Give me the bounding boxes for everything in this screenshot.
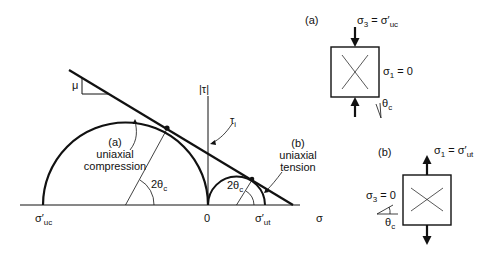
element-b-tag: (b) [378, 146, 391, 158]
element-a-side-sub: 1 [390, 71, 394, 80]
origin-label: 0 [204, 212, 210, 224]
tau-axis-label: |τ| [199, 83, 209, 95]
angle-arc-b [246, 191, 254, 205]
label-b-tag: (b) [268, 137, 328, 149]
leader-a-arrowhead [133, 119, 138, 124]
element-a-top-eq: = σ′ [368, 14, 389, 26]
sigma-uc-base: σ′ [35, 212, 44, 224]
element-b-box [403, 175, 451, 225]
sigma-ut-label: σ′ut [255, 212, 271, 226]
sigma-ut-base: σ′ [255, 212, 264, 224]
angle-b-base: 2θ [227, 179, 239, 191]
element-b-side-sub: 3 [373, 195, 377, 204]
label-a-line2: compression [80, 160, 150, 172]
mu-label: μ [72, 79, 78, 91]
leader-tau-i-arrowhead [210, 140, 216, 145]
label-a-line1: uniaxial [80, 148, 150, 160]
element-b-arrowhead-bottom [423, 236, 432, 245]
angle-b-sub: c [239, 185, 243, 194]
sigma-ut-sub: ut [264, 218, 271, 227]
label-a-compression: (a) uniaxial compression [80, 136, 150, 172]
tau-i-label: τi [230, 114, 236, 128]
element-a-angle-sub: c [388, 103, 392, 112]
angle-b-label: 2θc [227, 179, 243, 193]
angle-a-sub: c [163, 184, 167, 193]
tau-i-sub: i [234, 120, 236, 129]
element-b-side-base: σ [366, 189, 373, 201]
element-a-top-stress: σ3 = σ′uc [357, 14, 398, 28]
element-b-side-eq: = 0 [377, 189, 396, 201]
element-a-arrowhead-top [351, 38, 360, 47]
element-b-top-base: σ [434, 144, 441, 156]
tangent-point-b [250, 177, 255, 182]
label-b-line2: tension [268, 161, 328, 173]
element-a-arrowhead-bottom [351, 97, 360, 106]
element-b-angle-label: θc [385, 216, 395, 230]
element-b-arrowhead-top [423, 155, 432, 164]
angle-a-base: 2θ [151, 178, 163, 190]
element-a-side-eq: = 0 [394, 65, 413, 77]
sigma-axis-label: σ [316, 212, 323, 224]
element-b-top-sub: 1 [441, 150, 445, 159]
element-a-top-sub2: uc [390, 20, 398, 29]
element-b-top-stress: σ1 = σ′ut [434, 144, 473, 158]
element-b-angle-arm [377, 205, 393, 214]
angle-a-label: 2θc [151, 178, 167, 192]
sigma-uc-label: σ′uc [35, 212, 52, 226]
element-a-angle-mark [376, 103, 381, 118]
element-a-angle-label: θc [382, 97, 392, 111]
element-b-top-eq: = σ′ [445, 144, 466, 156]
tangent-point-a [164, 125, 169, 130]
element-a-top-base: σ [357, 14, 364, 26]
element-a-side-stress: σ1 = 0 [383, 65, 413, 79]
diagram-graphics [0, 0, 495, 255]
element-a-tag: (a) [305, 14, 318, 26]
element-b-top-sub2: ut [467, 150, 474, 159]
sigma-uc-sub: uc [44, 218, 52, 227]
element-a-top-sub: 3 [364, 20, 368, 29]
element-a-side-base: σ [383, 65, 390, 77]
leader-b [266, 172, 282, 191]
label-b-line1: uniaxial [268, 149, 328, 161]
element-b-angle-sub: c [391, 222, 395, 231]
label-a-tag: (a) [80, 136, 150, 148]
element-b-angle-arc [389, 207, 390, 214]
element-b-side-stress: σ3 = 0 [366, 189, 396, 203]
mohr-coulomb-diagram: μ |τ| τi (a) uniaxial compression (b) un… [0, 0, 495, 255]
label-b-tension: (b) uniaxial tension [268, 137, 328, 173]
